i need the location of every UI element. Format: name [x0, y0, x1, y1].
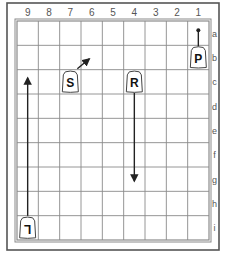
piece-pawn[interactable]: P — [190, 47, 206, 68]
row-label: a — [212, 29, 217, 39]
piece-lance[interactable]: L — [20, 217, 36, 238]
column-label: 4 — [132, 7, 138, 18]
column-label: 2 — [174, 7, 180, 18]
row-label: h — [212, 199, 217, 209]
inner-frame — [15, 19, 211, 242]
grid-border — [17, 21, 209, 240]
column-label: 1 — [196, 7, 202, 18]
arrow-dot-icon — [196, 28, 200, 32]
board-grid — [17, 21, 209, 240]
piece-label: S — [66, 76, 74, 90]
row-label: i — [214, 223, 216, 233]
row-label: b — [212, 53, 217, 63]
row-label: f — [213, 150, 216, 160]
row-label: g — [212, 175, 217, 185]
column-label: 9 — [25, 7, 31, 18]
column-label: 5 — [110, 7, 116, 18]
column-label: 8 — [46, 7, 52, 18]
board-frame — [7, 3, 219, 250]
move-arrows — [28, 28, 201, 216]
piece-label: R — [130, 76, 139, 90]
column-label: 3 — [153, 7, 159, 18]
row-label: e — [212, 126, 217, 136]
piece-label: P — [194, 52, 202, 66]
row-label: d — [212, 102, 217, 112]
outer-frame — [7, 3, 219, 250]
shogi-diagram: 987654321 abcdefghi PSRL — [0, 0, 225, 260]
row-labels: abcdefghi — [212, 29, 217, 234]
row-label: c — [212, 77, 217, 87]
column-label: 6 — [89, 7, 95, 18]
column-labels: 987654321 — [25, 7, 202, 18]
piece-rook[interactable]: R — [126, 71, 142, 92]
shogi-board: 987654321 abcdefghi PSRL — [0, 0, 225, 260]
column-label: 7 — [68, 7, 74, 18]
silver-move-arrow — [77, 59, 89, 69]
piece-silver[interactable]: S — [62, 71, 78, 92]
piece-label: L — [24, 222, 31, 236]
